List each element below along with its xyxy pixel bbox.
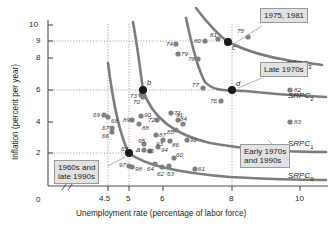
year-label-69: 69 xyxy=(93,112,100,118)
point-79 xyxy=(175,51,180,56)
year-label-74: 74 xyxy=(166,41,173,47)
y-tick-9: 9 xyxy=(36,37,40,45)
year-label-64: 64 xyxy=(147,166,154,172)
year-label-89: 89 xyxy=(123,117,130,123)
year-label-87: 87 xyxy=(159,132,166,138)
year-label-70: 70 xyxy=(133,99,140,105)
point-76 xyxy=(218,98,223,103)
point-83 xyxy=(287,119,292,124)
y-tick-10: 10 xyxy=(29,21,38,29)
x-tick-4-5: 4.5 xyxy=(99,195,110,203)
y-tick-4: 4 xyxy=(36,118,40,126)
srpc-3-sub: 3 xyxy=(308,64,311,70)
year-label-75: 75 xyxy=(237,28,244,34)
callout-1960s-late-1990s: 1960s and late 1990s xyxy=(54,160,99,184)
point-96 xyxy=(141,147,146,152)
point-87 xyxy=(153,132,158,137)
srpc-2-label: SRPC2 xyxy=(288,92,314,102)
year-label-80: 80 xyxy=(194,38,201,44)
year-label-92: 92 xyxy=(190,137,197,143)
y-tick-2: 2 xyxy=(36,149,40,157)
y-axis-title: Inflation (percent per year) xyxy=(12,64,20,160)
srpc-0-base: SRPC xyxy=(288,171,310,180)
year-label-88: 88 xyxy=(142,125,149,131)
year-label-63: 63 xyxy=(167,171,174,177)
point-98 xyxy=(129,164,134,169)
year-label-61: 61 xyxy=(198,166,205,172)
srpc-1-label: SRPC1 xyxy=(288,140,314,150)
year-label-97: 97 xyxy=(119,162,126,168)
key-point-c xyxy=(224,38,232,46)
year-label-96: 96 xyxy=(147,148,154,154)
key-label-d: d xyxy=(236,80,240,88)
srpc-1-base: SRPC xyxy=(288,139,310,148)
key-point-d xyxy=(228,86,236,94)
srpc-0-sub: 0 xyxy=(310,176,313,182)
x-axis-title: Unemployment rate (percentage of labor f… xyxy=(76,210,246,218)
key-label-a: a xyxy=(136,146,140,154)
callout-1960s-line1: 1960s and xyxy=(58,163,95,172)
year-label-98: 98 xyxy=(135,166,142,172)
callout-1960s-line2: late 1990s xyxy=(58,172,95,181)
phillips-curve-figure: Inflation (percent per year) 10 9 8 6 4 … xyxy=(0,0,332,231)
callout-early-1970s-1990s: Early 1970s and 1990s xyxy=(240,144,290,168)
year-label-67: 67 xyxy=(102,125,109,131)
x-tick-6: 6 xyxy=(160,195,164,203)
year-label-73: 73 xyxy=(130,93,137,99)
point-77 xyxy=(200,85,205,90)
year-label-79: 79 xyxy=(181,51,188,57)
point-61 xyxy=(192,166,197,171)
x-tick-8: 8 xyxy=(229,195,233,203)
point-62 xyxy=(159,164,164,169)
point-78 xyxy=(195,56,200,61)
y-tick-0: 0 xyxy=(36,196,40,204)
year-label-91: 91 xyxy=(176,112,183,118)
year-label-85: 85 xyxy=(167,129,174,135)
y-tick-8: 8 xyxy=(36,54,40,62)
point-89 xyxy=(129,117,134,122)
year-label-82: 82 xyxy=(294,87,301,93)
year-label-65: 65 xyxy=(121,146,128,152)
callout-early-line1: Early 1970s xyxy=(244,147,286,156)
point-69 xyxy=(101,112,106,117)
chart-canvas xyxy=(0,0,332,231)
year-label-95: 95 xyxy=(138,138,145,144)
point-72 xyxy=(154,117,159,122)
year-label-86: 86 xyxy=(172,142,179,148)
srpc-0-label: SRPC0 xyxy=(288,172,314,182)
point-71 xyxy=(168,110,173,115)
point-74 xyxy=(173,41,178,46)
year-label-66: 66 xyxy=(102,133,109,139)
year-label-68: 68 xyxy=(111,118,118,124)
callout-early-line2: and 1990s xyxy=(244,156,286,165)
point-85 xyxy=(173,127,178,132)
year-label-90: 90 xyxy=(144,112,151,118)
year-label-60: 60 xyxy=(176,152,183,158)
point-63 xyxy=(166,163,171,168)
y-tick-6: 6 xyxy=(36,86,40,94)
point-88 xyxy=(136,121,141,126)
srpc-1-sub: 1 xyxy=(310,144,313,150)
x-tick-5: 5 xyxy=(126,195,130,203)
point-80 xyxy=(202,38,207,43)
year-label-76: 76 xyxy=(210,98,217,104)
callout-1975-1981: 1975, 1981 xyxy=(260,8,308,23)
year-label-78: 78 xyxy=(188,56,195,62)
year-label-94: 94 xyxy=(161,147,168,153)
year-label-83: 83 xyxy=(294,119,301,125)
leader-d xyxy=(238,78,262,88)
callout-late-1970s: Late 1970s xyxy=(260,62,308,77)
key-label-b: b xyxy=(147,79,151,87)
key-point-b xyxy=(139,86,147,94)
point-67 xyxy=(109,125,114,130)
year-label-81: 81 xyxy=(210,32,217,38)
year-label-77: 77 xyxy=(192,82,199,88)
key-label-c: c xyxy=(232,44,236,52)
point-92 xyxy=(184,137,189,142)
x-tick-10: 10 xyxy=(295,195,304,203)
point-90 xyxy=(138,113,143,118)
year-label-62: 62 xyxy=(157,171,164,177)
srpc-2-sub: 2 xyxy=(310,96,313,102)
